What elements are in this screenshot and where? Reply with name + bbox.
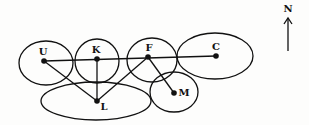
north-label: N xyxy=(283,3,292,14)
node-m-label: M xyxy=(178,87,189,98)
node-u-label: U xyxy=(39,46,48,57)
north-arrow: N xyxy=(283,3,292,51)
node-l-dot xyxy=(94,98,100,104)
node-c-dot xyxy=(213,53,219,59)
node-m-dot xyxy=(171,90,177,96)
edge-u-c xyxy=(44,56,216,61)
region-map: UKFCLM N xyxy=(0,0,309,125)
node-l-label: L xyxy=(100,101,107,112)
node-k-dot xyxy=(94,56,100,62)
connection-lines xyxy=(44,56,216,101)
node-k-label: K xyxy=(92,44,101,55)
node-c-label: C xyxy=(212,41,220,52)
node-f-dot xyxy=(145,54,151,60)
node-u-dot xyxy=(41,58,47,64)
node-f-label: F xyxy=(145,42,152,53)
diagram-canvas: UKFCLM N xyxy=(0,0,309,125)
